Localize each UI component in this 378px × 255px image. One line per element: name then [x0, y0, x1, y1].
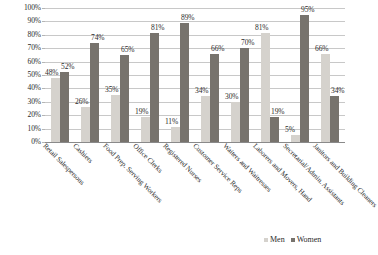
- bar-value-label: 52%: [61, 63, 74, 71]
- bar-value-label: 89%: [181, 14, 194, 22]
- bar-men: [51, 78, 60, 142]
- legend-swatch-icon: [291, 238, 295, 242]
- y-axis-tick-label: 40%: [28, 85, 41, 93]
- y-axis: 100%90%80%70%60%50%40%30%20%10%0%: [0, 8, 44, 142]
- bar-men: [321, 54, 330, 142]
- legend-label: Men: [270, 235, 285, 244]
- x-axis-label: Secretarial/Admin. Assistants: [281, 142, 346, 207]
- bar-men: [81, 107, 90, 142]
- bar-value-label: 95%: [301, 6, 314, 14]
- bar-value-label: 30%: [225, 93, 238, 101]
- bar-men: [171, 127, 180, 142]
- bar-men: [141, 117, 150, 142]
- bar-value-label: 19%: [135, 108, 148, 116]
- y-axis-tick-label: 100%: [24, 4, 41, 12]
- y-axis-tick-label: 60%: [28, 58, 41, 66]
- bar-women: [330, 96, 339, 142]
- bar-value-label: 19%: [271, 108, 284, 116]
- y-axis-tick-label: 0%: [31, 138, 41, 146]
- y-axis-tick-label: 10%: [28, 125, 41, 133]
- bar-men: [231, 102, 240, 142]
- bar-value-label: 11%: [165, 118, 178, 126]
- bar-value-label: 34%: [195, 87, 208, 95]
- bar-men: [111, 95, 120, 142]
- bar-value-label: 5%: [285, 126, 295, 134]
- bar-value-label: 81%: [151, 24, 164, 32]
- legend-label: Women: [297, 235, 322, 244]
- bar-value-label: 34%: [331, 87, 344, 95]
- x-axis-label: Office Clerks: [131, 142, 164, 175]
- bar-value-label: 35%: [105, 86, 118, 94]
- bar-women: [210, 54, 219, 142]
- legend-swatch-icon: [264, 238, 268, 242]
- x-axis-category-labels: Retail SalespersonsCashiersFood Prep. Se…: [45, 142, 345, 242]
- y-axis-tick-label: 30%: [28, 98, 41, 106]
- bar-value-label: 74%: [91, 34, 104, 42]
- bar-men: [291, 135, 300, 142]
- x-axis-label: Food Prep. Serving Workers: [101, 142, 163, 204]
- bar-women: [120, 55, 129, 142]
- bar-value-label: 65%: [121, 46, 134, 54]
- x-axis-label: Customer Service Reps: [191, 142, 244, 195]
- bar-value-label: 66%: [315, 45, 328, 53]
- bar-women: [300, 15, 309, 142]
- bar-women: [60, 72, 69, 142]
- y-axis-tick-label: 50%: [28, 71, 41, 79]
- y-axis-tick-label: 90%: [28, 18, 41, 26]
- bar-women: [90, 43, 99, 142]
- bar-women: [270, 117, 279, 142]
- bar-value-label: 26%: [75, 98, 88, 106]
- y-axis-tick-label: 80%: [28, 31, 41, 39]
- bar-women: [240, 48, 249, 142]
- x-axis-label: Laborers and Movers, Hand: [251, 142, 313, 204]
- x-axis-label: Cashiers: [71, 142, 94, 165]
- bar-women: [150, 33, 159, 142]
- y-axis-tick-label: 70%: [28, 44, 41, 52]
- bar-value-label: 81%: [255, 24, 268, 32]
- bars-layer: 48%52%26%74%35%65%19%81%11%89%34%66%30%7…: [45, 8, 345, 142]
- bar-women: [180, 23, 189, 142]
- bar-men: [201, 96, 210, 142]
- bar-value-label: 66%: [211, 45, 224, 53]
- legend-item-women[interactable]: Women: [291, 235, 322, 244]
- bar-men: [261, 33, 270, 142]
- chart-legend: MenWomen: [264, 235, 321, 244]
- y-axis-tick-label: 20%: [28, 111, 41, 119]
- legend-item-men[interactable]: Men: [264, 235, 285, 244]
- bar-value-label: 70%: [241, 39, 254, 47]
- plot-area: 48%52%26%74%35%65%19%81%11%89%34%66%30%7…: [45, 8, 345, 142]
- bar-value-label: 48%: [45, 69, 58, 77]
